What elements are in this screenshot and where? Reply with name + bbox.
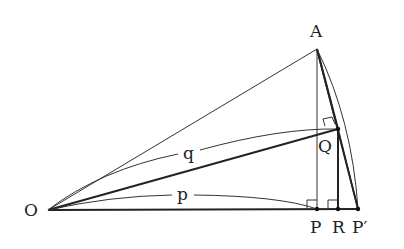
label-p: p	[177, 184, 188, 204]
point-P	[315, 207, 319, 211]
arc-q-left	[48, 154, 178, 210]
segment-QP-prime	[338, 129, 358, 209]
arc-p-right	[194, 195, 317, 209]
point-R	[336, 207, 340, 211]
segment-OQ	[48, 129, 338, 210]
right-angle-Q	[323, 117, 335, 126]
label-R: R	[332, 217, 346, 237]
geometry-diagram: A O Q P R P′ q p	[0, 0, 404, 249]
segment-OP-prime	[48, 209, 358, 210]
label-A: A	[309, 21, 323, 41]
label-q: q	[183, 143, 194, 163]
label-P-prime: P′	[352, 217, 367, 237]
label-P: P	[310, 217, 321, 237]
point-Q	[336, 127, 340, 131]
label-Q: Q	[318, 136, 332, 156]
point-P-prime	[356, 207, 360, 211]
label-O: O	[24, 200, 38, 220]
